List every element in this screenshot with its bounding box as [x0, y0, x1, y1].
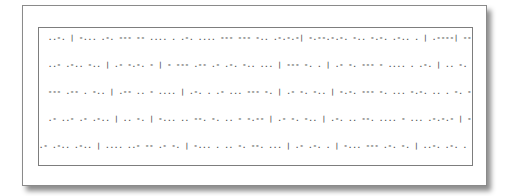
document-card: ..-. | -... .-. --- -- .... . .-. .... -…	[22, 5, 487, 186]
morse-text-box: ..-. | -... .-. --- -- .... . .-. .... -…	[38, 27, 473, 166]
morse-line-5: .- .-.. .-.. | .... ..- -- .- -. | -... …	[39, 142, 472, 150]
morse-line-2: ..- .-.. -.. | .- -.-. - | - --- .-- .- …	[39, 61, 472, 69]
morse-line-4: .- ..- .- .-.. | .. -. | -... .. --. -. …	[39, 115, 472, 123]
morse-line-1: ..-. | -... .-. --- -- .... . .-. .... -…	[39, 34, 472, 42]
morse-line-3: --- .-- . -.. | .-- .. - .... | .-. . .-…	[39, 88, 472, 96]
